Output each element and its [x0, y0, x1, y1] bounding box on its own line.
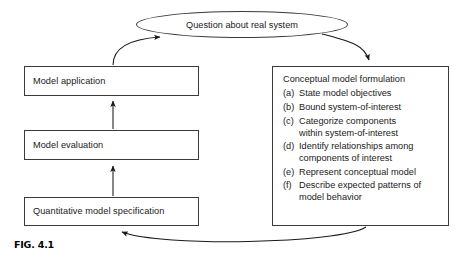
connector-conceptual-panel-to-quantitative-spec [122, 227, 366, 242]
node-model-evaluation[interactable]: Model evaluation [24, 130, 199, 160]
list-item-text: Identify relationships among components … [299, 141, 444, 164]
node-model-application-label: Model application [25, 76, 105, 86]
list-item-text-continuation: within system-of-interest [299, 128, 444, 140]
figure-caption: FIG. 4.1 [14, 239, 54, 250]
list-item-text-main: Categorize components [299, 116, 396, 126]
list-item-text-continuation: model behavior [299, 192, 444, 204]
list-item-text-main: Describe expected patterns of [299, 180, 421, 190]
node-quantitative-model-specification-label: Quantitative model specification [25, 206, 164, 216]
list-item-marker: (e) [283, 167, 299, 179]
connector-question-to-conceptual-panel [322, 34, 369, 60]
list-item-text-main: Identify relationships among [299, 141, 413, 151]
list-item-marker: (b) [283, 102, 299, 114]
node-conceptual-model-formulation[interactable]: Conceptual model formulation (a) State m… [272, 66, 449, 226]
list-item-text-main: State model objectives [299, 88, 391, 98]
list-item: (c) Categorize components within system-… [283, 116, 444, 139]
list-item: (e) Represent conceptual model [283, 167, 444, 179]
figure-container: Question about real system Model applica… [0, 0, 471, 259]
node-question-about-real-system[interactable]: Question about real system [136, 11, 348, 38]
list-item-text: Bound system-of-interest [299, 102, 444, 114]
list-item-text: Represent conceptual model [299, 167, 444, 179]
list-item-marker: (c) [283, 116, 299, 128]
list-item: (a) State model objectives [283, 88, 444, 100]
node-model-application[interactable]: Model application [24, 66, 199, 96]
list-item-text: Describe expected patterns of model beha… [299, 180, 444, 203]
list-item-text-main: Bound system-of-interest [299, 102, 401, 112]
list-item-text-continuation: components of interest [299, 153, 444, 165]
list-item: (d) Identify relationships among compone… [283, 141, 444, 164]
panel-step-list: (a) State model objectives (b) Bound sys… [283, 88, 444, 203]
list-item-text-main: Represent conceptual model [299, 167, 416, 177]
list-item-text: State model objectives [299, 88, 444, 100]
node-question-label: Question about real system [186, 20, 298, 30]
connector-model-application-to-question [113, 37, 160, 65]
node-quantitative-model-specification[interactable]: Quantitative model specification [24, 197, 199, 226]
list-item-marker: (f) [283, 180, 299, 192]
list-item: (b) Bound system-of-interest [283, 102, 444, 114]
list-item-marker: (a) [283, 88, 299, 100]
list-item-marker: (d) [283, 141, 299, 153]
list-item-text: Categorize components within system-of-i… [299, 116, 444, 139]
panel-heading: Conceptual model formulation [283, 74, 444, 85]
node-model-evaluation-label: Model evaluation [25, 140, 103, 150]
list-item: (f) Describe expected patterns of model … [283, 180, 444, 203]
